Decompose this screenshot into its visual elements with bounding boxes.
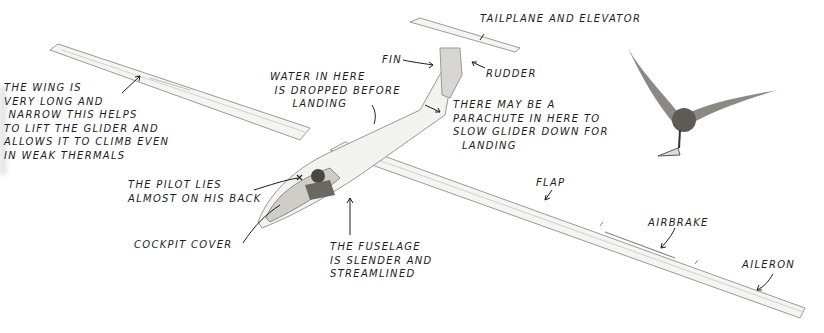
tail <box>410 18 520 98</box>
fin-label: FIN <box>382 53 402 67</box>
fin-shape <box>440 48 462 98</box>
pilot-label: THE PILOT LIES ALMOST ON HIS BACK <box>128 178 262 205</box>
airbrake-label: AIRBRAKE <box>648 216 709 230</box>
cockpit-cover-label: COCKPIT COVER <box>134 238 233 252</box>
glider-illustration <box>0 0 824 333</box>
right-wing <box>330 142 805 318</box>
flap-label: FLAP <box>536 176 565 190</box>
pilot-head <box>311 169 325 183</box>
rudder-label: RUDDER <box>486 67 537 81</box>
fuselage-label: THE FUSELAGE IS SLENDER AND STREAMLINED <box>330 240 433 281</box>
water-ballast-label: WATER IN HERE IS DROPPED BEFORE LANDING <box>270 70 401 111</box>
wing-label: THE WING IS VERY LONG AND NARROW THIS HE… <box>4 81 169 162</box>
bird-illustration <box>628 48 778 156</box>
aileron-label: AILERON <box>742 258 795 272</box>
glider-diagram: THE WING IS VERY LONG AND NARROW THIS HE… <box>0 0 824 333</box>
tailplane-label: TAILPLANE AND ELEVATOR <box>480 12 641 26</box>
parachute-label: THERE MAY BE A PARACHUTE IN HERE TO SLOW… <box>453 98 609 152</box>
